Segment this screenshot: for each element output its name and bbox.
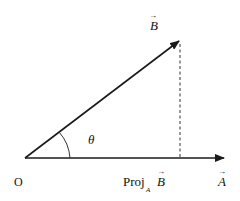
svg-text:B: B (150, 18, 158, 33)
svg-text:→: → (149, 11, 157, 20)
label-origin: O (14, 175, 23, 189)
label-vector-a: A → (217, 167, 226, 189)
label-angle-theta: θ (88, 132, 95, 147)
svg-text:→: → (157, 167, 165, 176)
vector-projection-diagram: B → θ O Proj A B → A → (0, 0, 240, 201)
svg-text:B: B (157, 174, 165, 189)
label-vector-b: B → (149, 11, 158, 33)
svg-text:Proj: Proj (123, 174, 145, 189)
vector-b-line (25, 41, 179, 158)
svg-text:A: A (145, 186, 151, 194)
angle-arc (59, 132, 70, 158)
svg-text:→: → (218, 167, 226, 176)
label-projection: Proj A B → (123, 167, 165, 194)
svg-text:A: A (217, 174, 226, 189)
